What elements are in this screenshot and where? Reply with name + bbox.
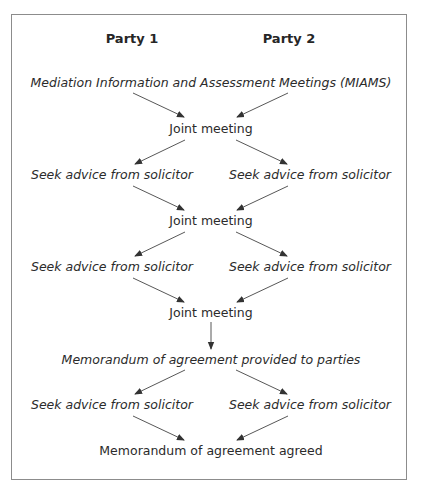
node-memo-agreed: Memorandum of agreement agreed xyxy=(99,443,322,458)
node-advice-2-right: Seek advice from solicitor xyxy=(229,259,391,274)
node-advice-3-right: Seek advice from solicitor xyxy=(229,397,391,412)
arrow-joint1-to-advice-left xyxy=(135,140,185,164)
node-advice-2-left: Seek advice from solicitor xyxy=(31,259,193,274)
arrow-advice-left-to-joint3 xyxy=(133,278,184,302)
arrow-miams-to-joint1-left xyxy=(133,93,184,117)
arrow-miams-to-joint1-right xyxy=(237,93,288,117)
party-1-header: Party 1 xyxy=(106,31,159,46)
arrow-advice-right-to-joint2 xyxy=(237,186,288,210)
node-joint-meeting-1: Joint meeting xyxy=(169,121,252,136)
node-joint-meeting-3: Joint meeting xyxy=(169,305,252,320)
party-2-header: Party 2 xyxy=(263,31,316,46)
arrow-advice-right-to-joint3 xyxy=(237,278,288,302)
arrow-joint1-to-advice-right xyxy=(236,140,287,164)
arrow-advice-left-to-joint2 xyxy=(133,186,184,210)
arrow-joint2-to-advice-left xyxy=(135,232,185,256)
arrow-advice-left-to-memo-agreed xyxy=(133,416,184,440)
node-advice-1-left: Seek advice from solicitor xyxy=(31,167,193,182)
arrow-memo-to-advice-right xyxy=(236,370,287,394)
node-advice-3-left: Seek advice from solicitor xyxy=(31,397,193,412)
arrow-memo-to-advice-left xyxy=(135,370,185,394)
node-advice-1-right: Seek advice from solicitor xyxy=(229,167,391,182)
arrow-advice-right-to-memo-agreed xyxy=(237,416,288,440)
node-memo-provided: Memorandum of agreement provided to part… xyxy=(62,352,361,367)
node-joint-meeting-2: Joint meeting xyxy=(169,213,252,228)
arrow-joint2-to-advice-right xyxy=(236,232,287,256)
node-miams: Mediation Information and Assessment Mee… xyxy=(31,75,392,90)
